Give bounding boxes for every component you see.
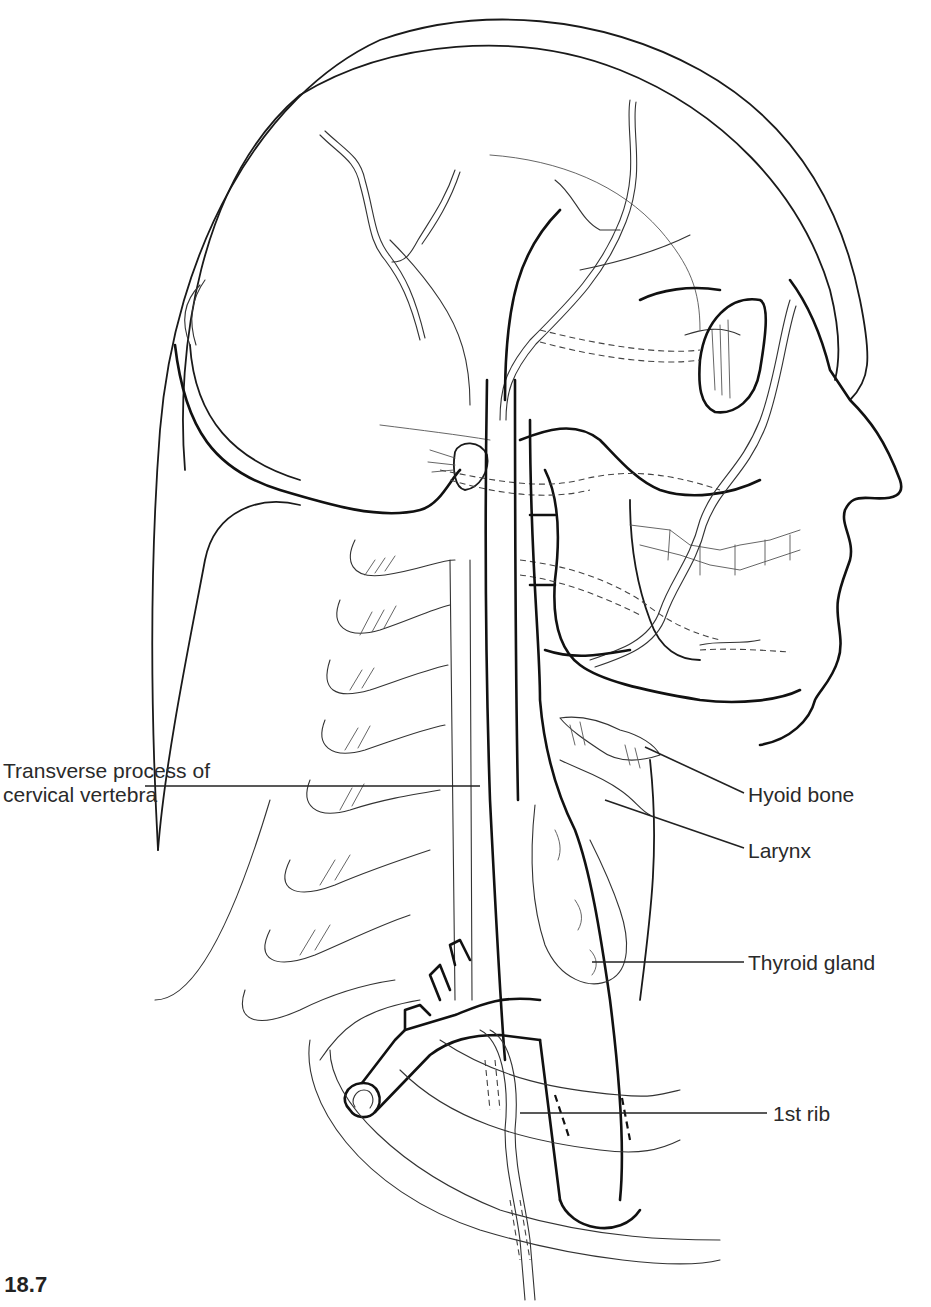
face-profile	[440, 280, 901, 745]
cranial-arteries	[185, 100, 740, 420]
carotid-arteries	[486, 210, 640, 1228]
aortic-arch	[309, 940, 720, 1300]
leader-larynx	[605, 800, 744, 848]
label-hyoid-bone: Hyoid bone	[748, 783, 854, 807]
anatomy-figure: Transverse process of cervical vertebra …	[0, 0, 931, 1307]
figure-caption: e 18.7	[0, 1272, 47, 1298]
cervical-vertebrae	[242, 540, 472, 1020]
larynx-thyroid	[532, 717, 660, 1000]
label-thyroid-gland: Thyroid gland	[748, 951, 875, 975]
label-transverse-process: Transverse process of cervical vertebra	[3, 759, 243, 807]
label-first-rib: 1st rib	[773, 1102, 830, 1126]
skull-base	[175, 345, 490, 513]
label-larynx: Larynx	[748, 839, 811, 863]
leader-hyoid-bone	[645, 747, 744, 793]
